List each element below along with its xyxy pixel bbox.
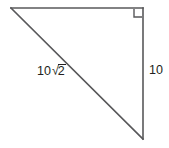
right-triangle-figure: 10√2 10 (0, 0, 169, 148)
radical-expression: √2 (51, 64, 66, 78)
right-angle-icon (134, 9, 142, 17)
vertical-leg-label: 10 (149, 64, 163, 77)
hypotenuse-label: 10√2 (37, 64, 66, 78)
triangle-hypotenuse-edge (11, 8, 143, 139)
radicand-value: 2 (58, 64, 66, 78)
hypotenuse-coefficient: 10 (37, 64, 51, 78)
triangle-drawing (0, 0, 169, 148)
